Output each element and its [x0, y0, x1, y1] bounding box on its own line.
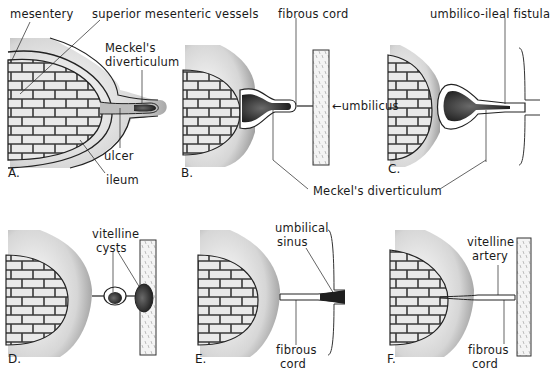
label-umbilico-ileal-fistula: umbilico-ileal fistula	[430, 8, 550, 21]
label-vitelline-artery-line1: vitelline	[467, 236, 514, 249]
label-fibrous-cord-e-line2: cord	[280, 358, 306, 371]
label-mesentery: mesentery	[10, 8, 74, 21]
panel-label-e: E.	[195, 352, 206, 366]
panel-e-drawing	[198, 230, 345, 357]
label-fibrous-cord-b: fibrous cord	[278, 8, 349, 21]
label-vitelline-artery-line2: artery	[472, 250, 508, 263]
label-fibrous-cord-f-line2: cord	[472, 358, 498, 371]
panel-label-f: F.	[387, 352, 396, 366]
label-vitelline-cysts-line1: vitelline	[92, 228, 139, 241]
label-umbilical-sinus-line1: umbilical	[275, 222, 329, 235]
panel-f-drawing	[390, 230, 531, 357]
label-umbilical-sinus-line2: sinus	[277, 236, 308, 249]
panel-label-b: B.	[181, 166, 193, 180]
label-ulcer: ulcer	[104, 150, 134, 163]
panel-d-drawing	[6, 230, 156, 357]
panel-label-a: A.	[8, 166, 20, 180]
panel-c-drawing	[388, 18, 540, 167]
label-meckels-a-line1: Meckel's	[105, 42, 156, 55]
panel-b-drawing	[183, 18, 329, 167]
label-vitelline-cysts-line2: cysts	[96, 242, 127, 255]
label-fibrous-cord-e-line1: fibrous	[276, 344, 317, 357]
label-meckels-diverticulum-shared: Meckel's diverticulum	[313, 185, 442, 198]
label-fibrous-cord-f-line1: fibrous	[468, 344, 509, 357]
label-superior-mesenteric-vessels: superior mesenteric vessels	[92, 8, 259, 21]
label-ileum: ileum	[106, 174, 139, 187]
label-umbilicus: ←umbilicus	[332, 100, 399, 113]
label-meckels-a-line2: diverticulum	[105, 56, 180, 69]
panel-label-c: C.	[388, 162, 400, 176]
arrow-left-icon: ←	[332, 99, 342, 113]
panel-label-d: D.	[8, 352, 21, 366]
